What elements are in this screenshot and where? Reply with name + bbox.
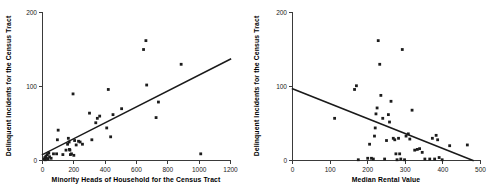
data-point	[50, 157, 53, 160]
data-point	[438, 156, 441, 159]
data-point	[355, 84, 358, 87]
data-point	[120, 107, 123, 110]
data-point	[383, 158, 386, 161]
x-tick-label: 800	[162, 166, 173, 173]
x-tick-label: 100	[325, 166, 336, 173]
data-point	[385, 139, 388, 142]
data-point	[372, 158, 375, 161]
data-point	[55, 152, 58, 155]
data-point	[398, 152, 401, 155]
trend-line-right	[293, 89, 473, 161]
y-tick-label: 0	[283, 157, 287, 164]
data-point	[155, 116, 158, 119]
data-point	[112, 113, 115, 116]
data-point	[381, 117, 384, 120]
x-tick-label: 1000	[192, 166, 207, 173]
data-point	[401, 48, 404, 51]
data-point	[353, 88, 356, 91]
x-tick-label: 400	[437, 166, 448, 173]
data-point	[98, 115, 101, 118]
x-tick-label: 400	[100, 166, 111, 173]
x-tick-label: 1200	[223, 166, 238, 173]
scatterplot-figure: 020040060080010001200 0100200 Minority H…	[0, 0, 494, 193]
chart-panel-right: 0100200300400500 0100200 Median Rental V…	[247, 0, 494, 193]
data-point	[413, 149, 416, 152]
data-point	[466, 144, 469, 147]
data-point	[357, 158, 360, 161]
data-point	[374, 127, 377, 130]
data-point	[397, 137, 400, 140]
data-point	[107, 88, 110, 91]
y-axis-title-left: Delinquent Incidents for the Census Trac…	[5, 15, 13, 156]
data-point	[57, 129, 60, 132]
data-point	[366, 157, 369, 160]
chart-right-plot-area: 0100200300400500 0100200	[276, 9, 486, 173]
x-tick-labels-right: 0100200300400500	[291, 166, 487, 173]
chart-left-plot-area: 020040060080010001200 0100200	[26, 9, 238, 173]
x-tick-label: 200	[68, 166, 79, 173]
data-point	[69, 149, 72, 152]
regression-line	[293, 89, 473, 161]
data-point	[368, 143, 371, 146]
data-point	[388, 121, 391, 124]
data-points-right	[333, 39, 469, 161]
data-point	[90, 138, 93, 141]
data-point	[379, 94, 382, 97]
data-point	[435, 134, 438, 137]
data-point	[395, 152, 398, 155]
chart-panel-left: 020040060080010001200 0100200 Minority H…	[0, 0, 247, 193]
data-point	[396, 158, 399, 161]
data-point	[373, 135, 376, 138]
data-point	[441, 158, 444, 161]
x-axis-title-left: Minority Heads of Household for the Cens…	[52, 176, 221, 184]
chart-left-svg: 020040060080010001200 0100200 Minority H…	[0, 0, 247, 193]
data-point	[421, 151, 424, 154]
data-point	[52, 152, 55, 155]
data-point	[393, 138, 396, 141]
data-point	[378, 63, 381, 66]
data-point	[109, 135, 112, 138]
data-point	[428, 158, 431, 161]
data-point	[61, 153, 64, 156]
data-point	[377, 39, 380, 42]
data-point	[94, 121, 97, 124]
data-point	[56, 138, 59, 141]
data-point	[105, 127, 108, 130]
data-point	[142, 48, 145, 51]
data-point	[81, 143, 84, 146]
x-tick-label: 200	[362, 166, 373, 173]
y-tick-label: 200	[276, 9, 287, 16]
data-point	[75, 144, 78, 147]
x-tick-label: 500	[475, 166, 486, 173]
y-axis-title-right: Delinquent Incidents for the Census Trac…	[253, 15, 261, 156]
data-point	[411, 109, 414, 112]
data-point	[67, 137, 70, 140]
data-point	[408, 138, 411, 141]
x-tick-label: 300	[400, 166, 411, 173]
x-tick-label: 600	[131, 166, 142, 173]
x-tick-labels-left: 020040060080010001200	[41, 166, 238, 173]
chart-right-svg: 0100200300400500 0100200 Median Rental V…	[247, 0, 494, 193]
data-point	[399, 158, 402, 161]
y-tick-label: 100	[276, 83, 287, 90]
data-point	[418, 147, 421, 150]
y-tick-labels-left: 0100200	[26, 9, 37, 164]
data-point	[436, 138, 439, 141]
data-point	[403, 158, 406, 161]
data-point	[88, 112, 91, 115]
data-point	[157, 101, 160, 104]
data-point	[65, 149, 68, 152]
x-tick-label: 0	[41, 166, 45, 173]
data-point	[423, 158, 426, 161]
data-point	[376, 107, 379, 110]
data-point	[145, 84, 148, 87]
data-point	[433, 158, 436, 161]
data-point	[145, 39, 148, 42]
x-tick-label: 0	[291, 166, 295, 173]
data-point	[375, 112, 378, 115]
data-point	[72, 93, 75, 96]
data-point	[72, 154, 75, 157]
y-tick-labels-right: 0100200	[276, 9, 287, 164]
data-point	[390, 100, 393, 103]
data-point	[199, 152, 202, 155]
